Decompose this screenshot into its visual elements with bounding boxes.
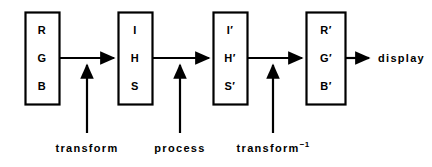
- display-output-label: display: [378, 52, 425, 64]
- rgb-prime-label-g-base: G: [320, 52, 329, 64]
- ihs-prime-box-label-i: I′: [227, 24, 234, 36]
- ihs-box-label-i: I: [133, 24, 137, 36]
- process-stem-label: process: [154, 142, 205, 154]
- ihs-box-label-h: H: [131, 52, 139, 64]
- rgb-prime-box-label-b: B′: [320, 80, 332, 92]
- ihs-box-label-s: S: [131, 80, 139, 92]
- ihs-prime-box-label-s: S′: [225, 80, 236, 92]
- rgb-prime-box-label-r: R′: [320, 24, 332, 36]
- inverse-transform-stem-label: transform−1: [237, 142, 310, 154]
- ihs-prime-label-s-base: S: [225, 80, 233, 92]
- rgb-box-label-g: G: [37, 52, 46, 64]
- ihs-prime-box-label-h: H′: [224, 52, 236, 64]
- diagram-canvas: R G B I H S I′ H′ S′ R′ G′ B′ transform …: [0, 0, 432, 167]
- transform-stem-label: transform: [55, 142, 118, 154]
- inverse-transform-label-base: transform: [237, 142, 300, 154]
- rgb-prime-label-r-prime: ′: [329, 24, 332, 36]
- rgb-prime-box-label-g: G′: [320, 52, 332, 64]
- ihs-prime-label-h-prime: ′: [233, 52, 236, 64]
- rgb-box-label-b: B: [38, 80, 46, 92]
- ihs-prime-label-s-prime: ′: [232, 80, 235, 92]
- ihs-prime-label-i-prime: ′: [230, 24, 233, 36]
- rgb-prime-label-g-prime: ′: [329, 52, 332, 64]
- rgb-box-label-r: R: [38, 24, 46, 36]
- inverse-transform-label-superscript: −1: [300, 140, 310, 149]
- rgb-prime-label-b-prime: ′: [329, 80, 332, 92]
